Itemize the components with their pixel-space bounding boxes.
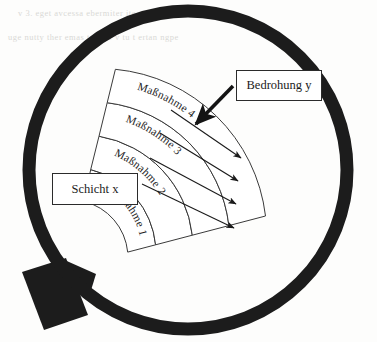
- callout-bedrohung-y[interactable]: Bedrohung y: [236, 70, 322, 101]
- callout-bedrohung-y-label: Bedrohung y: [247, 78, 312, 93]
- callout-schicht-x-label: Schicht x: [72, 182, 119, 197]
- figure-canvas: v 3. eget avcessa ebermiter ite aucereit…: [0, 0, 377, 342]
- magnifier-diagram: Maßnahme 1 Maßnahme 2 Maßnahme 3 Maßnahm…: [0, 0, 377, 342]
- callout-schicht-x[interactable]: Schicht x: [52, 173, 138, 205]
